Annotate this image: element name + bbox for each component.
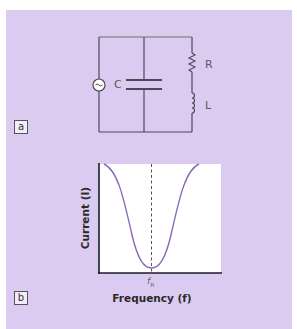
resistor-label: R	[205, 58, 213, 71]
resistor-icon	[189, 53, 195, 72]
capacitor-label: C	[114, 78, 122, 91]
circuit-diagram	[93, 37, 195, 132]
panel-a-label: a	[14, 120, 28, 134]
inductor-icon	[192, 93, 195, 113]
tick-sub: R	[150, 281, 154, 288]
x-axis-label: Frequency (f)	[100, 292, 204, 304]
resonance-chart	[98, 163, 222, 274]
y-axis-label: Current (I)	[79, 178, 91, 258]
panel-b-label: b	[14, 291, 28, 305]
resonant-frequency-tick: fR	[147, 276, 154, 288]
inductor-label: L	[205, 99, 211, 112]
